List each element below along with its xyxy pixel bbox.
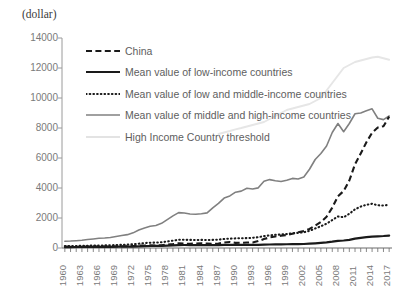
legend-swatch-dotted-black — [86, 89, 120, 99]
x-tick-label: 1975 — [142, 265, 153, 286]
x-tick-label: 2005 — [313, 265, 324, 286]
x-tick-label: 2002 — [296, 265, 307, 286]
x-tick-label: 1990 — [228, 265, 239, 286]
legend-item: Mean value of middle and high-income cou… — [86, 105, 386, 127]
x-tick-label: 1993 — [245, 265, 256, 286]
legend-label: Mean value of middle and high-income cou… — [125, 109, 351, 121]
chart-legend: ChinaMean value of low-income countriesM… — [86, 40, 386, 148]
legend-label: Mean value of low-income countries — [125, 66, 293, 78]
legend-swatch-solid-lightgray — [86, 132, 120, 142]
x-tick-label: 1969 — [108, 265, 119, 286]
x-tick-label: 1963 — [74, 265, 85, 286]
x-tick-label: 1978 — [159, 265, 170, 286]
x-tick-label: 1966 — [91, 265, 102, 286]
x-axis-tick-labels: 1960196319661969197219751978198119841987… — [0, 248, 403, 288]
legend-label: High Income Country threshold — [125, 131, 270, 143]
x-tick-label: 2014 — [364, 265, 375, 286]
legend-item: China — [86, 40, 386, 62]
x-tick-label: 2008 — [330, 265, 341, 286]
legend-item: Mean value of low-income countries — [86, 62, 386, 84]
x-tick-label: 2011 — [347, 266, 358, 286]
legend-swatch-solid-thick-black — [86, 67, 120, 77]
legend-swatch-dashed-black — [86, 46, 120, 56]
legend-swatch-solid-gray — [86, 110, 120, 120]
x-tick-label: 1960 — [57, 265, 68, 286]
x-tick-label: 1987 — [211, 265, 222, 286]
x-tick-label: 1972 — [125, 265, 136, 286]
x-tick-label: 1996 — [262, 265, 273, 286]
x-tick-label: 1984 — [194, 265, 205, 286]
x-tick-label: 1999 — [279, 265, 290, 286]
legend-item: Mean value of low and middle-income coun… — [86, 83, 386, 105]
legend-item: High Income Country threshold — [86, 126, 386, 148]
x-tick-label: 1981 — [176, 265, 187, 286]
x-tick-label: 2017 — [381, 265, 392, 286]
chart-container: (dollar) 1400012000100008000600040002000… — [0, 0, 403, 288]
legend-label: Mean value of low and middle-income coun… — [125, 88, 347, 100]
legend-label: China — [125, 45, 152, 57]
